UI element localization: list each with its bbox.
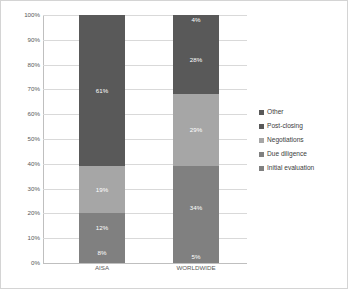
legend-swatch-icon-other — [259, 110, 264, 115]
y-tick-40: 40% — [2, 161, 40, 167]
bar-aisa-segment-initial-evaluation[interactable]: 8% — [79, 243, 125, 263]
bar-worldwide-label-initial-evaluation: 5% — [191, 254, 200, 260]
y-tick-30: 30% — [2, 185, 40, 191]
legend-label-post-closing: Post-closing — [267, 123, 303, 130]
y-tick-50: 50% — [2, 136, 40, 142]
bar-worldwide-segment-post-closing[interactable]: 28% — [173, 25, 219, 94]
legend-label-other: Other — [267, 109, 284, 116]
bar-aisa[interactable]: 61% 19% 12% 8% — [79, 15, 125, 263]
bar-aisa-label-due-diligence: 12% — [96, 225, 109, 231]
bar-worldwide-segment-due-diligence[interactable]: 34% — [173, 166, 219, 250]
bar-aisa-segment-post-closing[interactable]: 61% — [79, 15, 125, 166]
chart-legend: Other Post-closing Negotiations Due dili… — [259, 109, 347, 179]
gridline-0 — [43, 263, 247, 264]
bar-worldwide-label-due-diligence: 34% — [190, 205, 203, 211]
category-label-worldwide: WORLDWIDE — [151, 265, 241, 271]
bar-aisa-segment-due-diligence[interactable]: 12% — [79, 213, 125, 243]
plot-area: 61% 19% 12% 8% 4% 28% 29% 34% — [43, 15, 247, 263]
bar-worldwide-segment-negotiations[interactable]: 29% — [173, 94, 219, 166]
legend-label-initial-evaluation: Initial evaluation — [267, 165, 314, 172]
legend-swatch-icon-due-diligence — [259, 152, 264, 157]
y-tick-100: 100% — [2, 12, 40, 18]
y-tick-20: 20% — [2, 210, 40, 216]
legend-swatch-icon-initial-evaluation — [259, 166, 264, 171]
legend-item-initial-evaluation[interactable]: Initial evaluation — [259, 165, 347, 172]
legend-swatch-icon-post-closing — [259, 124, 264, 129]
legend-item-due-diligence[interactable]: Due diligence — [259, 151, 347, 158]
category-label-aisa: AISA — [57, 265, 147, 271]
bar-aisa-label-initial-evaluation: 8% — [97, 250, 106, 256]
chart-container: 100% 90% 80% 70% 60% 50% 40% 30% 20% 10%… — [0, 0, 348, 289]
legend-item-other[interactable]: Other — [259, 109, 347, 116]
bar-aisa-segment-negotiations[interactable]: 19% — [79, 166, 125, 213]
bar-worldwide-label-other: 4% — [191, 17, 200, 23]
y-tick-60: 60% — [2, 111, 40, 117]
legend-item-negotiations[interactable]: Negotiations — [259, 137, 347, 144]
legend-label-due-diligence: Due diligence — [267, 151, 307, 158]
y-tick-80: 80% — [2, 61, 40, 67]
bar-worldwide-segment-other[interactable]: 4% — [173, 15, 219, 25]
y-axis-tick-labels: 100% 90% 80% 70% 60% 50% 40% 30% 20% 10%… — [1, 15, 40, 263]
legend-label-negotiations: Negotiations — [267, 137, 304, 144]
y-tick-90: 90% — [2, 37, 40, 43]
y-tick-0: 0% — [2, 260, 40, 266]
bar-worldwide-label-post-closing: 28% — [190, 57, 203, 63]
bar-aisa-label-negotiations: 19% — [96, 187, 109, 193]
y-tick-10: 10% — [2, 235, 40, 241]
legend-item-post-closing[interactable]: Post-closing — [259, 123, 347, 130]
bar-aisa-label-post-closing: 61% — [96, 88, 109, 94]
legend-swatch-icon-negotiations — [259, 138, 264, 143]
x-axis-category-labels: AISA WORLDWIDE — [43, 265, 247, 279]
y-tick-70: 70% — [2, 86, 40, 92]
bar-worldwide[interactable]: 4% 28% 29% 34% 5% — [173, 15, 219, 263]
bar-worldwide-segment-initial-evaluation[interactable]: 5% — [173, 251, 219, 263]
bar-worldwide-label-negotiations: 29% — [190, 127, 203, 133]
